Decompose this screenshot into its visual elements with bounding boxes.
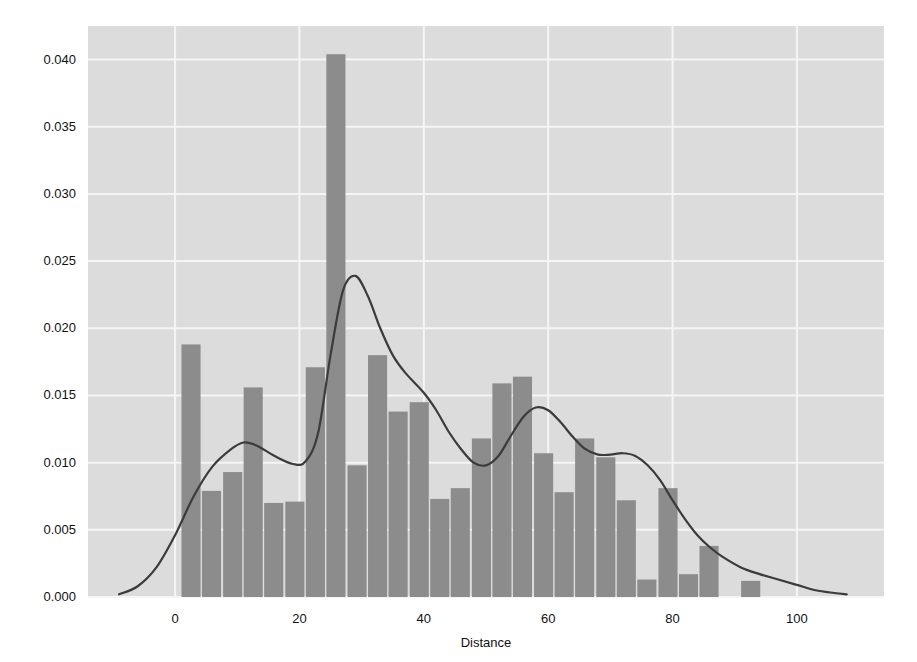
histogram-bar [264,503,283,597]
y-tick-label: 0.000 [0,589,76,604]
histogram-bar [575,438,594,597]
histogram-bar [306,367,325,597]
x-tick-label: 60 [508,611,588,626]
histogram-bar [410,402,429,597]
histogram-bar [492,383,511,597]
x-tick-label: 40 [384,611,464,626]
y-tick-label: 0.010 [0,455,76,470]
y-tick-label: 0.005 [0,522,76,537]
y-tick-label: 0.025 [0,253,76,268]
histogram-bar [285,502,304,597]
x-tick-label: 0 [135,611,215,626]
histogram-bar [223,472,242,597]
y-tick-label: 0.030 [0,186,76,201]
x-tick-label: 80 [633,611,713,626]
histogram-bar [430,499,449,597]
x-axis-title: Distance [88,635,884,650]
histogram-bar [555,492,574,597]
x-tick-label: 20 [259,611,339,626]
histogram-bar [617,500,636,597]
histogram-bar [389,412,408,597]
chart-canvas [0,0,917,662]
histogram-bar [348,465,367,597]
x-tick-label: 100 [757,611,837,626]
y-tick-label: 0.015 [0,387,76,402]
histogram-bar [534,453,553,597]
histogram-bar [451,488,470,597]
y-tick-label: 0.020 [0,320,76,335]
histogram-bar [679,574,698,597]
histogram-bar [181,344,200,597]
histogram-bar [596,457,615,597]
histogram-bar [513,377,532,597]
histogram-bar [741,581,760,597]
y-tick-label: 0.040 [0,52,76,67]
histogram-bar [637,580,656,597]
y-tick-label: 0.035 [0,119,76,134]
histogram-bar [202,491,221,597]
histogram-bar [244,387,263,597]
histogram-bar [699,546,718,597]
histogram-bar [368,355,387,597]
figure: 0.0000.0050.0100.0150.0200.0250.0300.035… [0,0,917,662]
